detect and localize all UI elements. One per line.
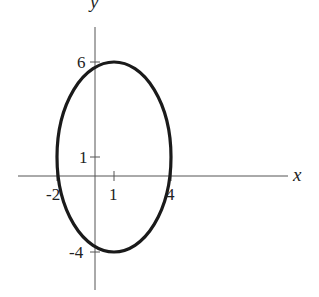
y-tick-label-1: 1 <box>79 148 88 167</box>
ellipse-curve <box>57 62 171 252</box>
ellipse-plot: -2 1 4 6 1 -4 x y <box>0 0 319 297</box>
x-tick-label-1: 1 <box>109 185 118 204</box>
x-tick-label-4: 4 <box>166 185 175 204</box>
x-axis-label: x <box>292 164 302 185</box>
x-tick-label-neg2: -2 <box>46 185 60 204</box>
y-tick-label-6: 6 <box>77 53 86 72</box>
y-tick-label-neg4: -4 <box>69 243 84 262</box>
y-axis-label: y <box>88 0 99 12</box>
